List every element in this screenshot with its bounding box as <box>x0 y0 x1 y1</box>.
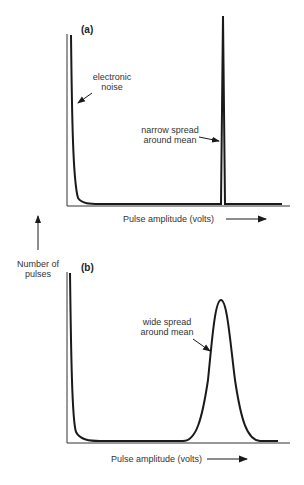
peak-annotation-b-line2: around mean <box>134 327 200 337</box>
panel-a-noise-curve <box>71 35 218 204</box>
peak-annotation-a-line2: around mean <box>137 135 203 145</box>
noise-annotation-a-line2: noise <box>82 82 142 92</box>
panel-a-axes <box>67 34 290 206</box>
peak-annotation-a-line1: narrow spread <box>137 125 203 135</box>
peak-annotation-b-line1: wide spread <box>134 317 200 327</box>
x-axis-label-b: Pulse amplitude (volts) <box>111 454 211 464</box>
peak-arrow-b <box>193 339 210 351</box>
y-axis-label-line1: Number of <box>12 259 64 269</box>
x-axis-label-a: Pulse amplitude (volts) <box>123 214 223 224</box>
panel-b-curve <box>70 273 278 441</box>
y-axis-label: Number of pulses <box>12 259 64 279</box>
y-axis-label-line2: pulses <box>12 269 64 279</box>
panel-b-tag: (b) <box>81 262 94 273</box>
noise-annotation-a-line1: electronic <box>82 72 142 82</box>
peak-annotation-b: wide spread around mean <box>134 317 200 337</box>
panel-a-tag: (a) <box>81 24 93 35</box>
pulse-height-diagram <box>0 0 304 485</box>
peak-annotation-a: narrow spread around mean <box>137 125 203 145</box>
noise-arrow-a <box>78 93 92 103</box>
panel-a-narrow-peak <box>218 16 282 204</box>
noise-annotation-a: electronic noise <box>82 72 142 92</box>
panel-b-axes <box>67 272 290 443</box>
